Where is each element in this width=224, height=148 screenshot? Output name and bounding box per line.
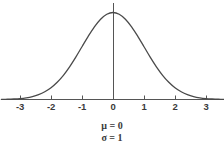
x-tick-label-pos3: 3 [194, 101, 218, 112]
x-tick-label-neg3: -3 [8, 101, 32, 112]
parameter-annotations: μ = 0 σ = 1 [0, 120, 224, 143]
x-tick-label-neg1: -1 [70, 101, 94, 112]
sigma-annotation: σ = 1 [0, 132, 224, 144]
x-tick-label-zero: 0 [101, 101, 125, 112]
mu-annotation: μ = 0 [0, 120, 224, 132]
x-tick-label-neg2: -2 [39, 101, 63, 112]
normal-distribution-figure: -3 -2 -1 0 1 2 3 μ = 0 σ = 1 [0, 0, 224, 148]
x-tick-label-pos2: 2 [163, 101, 187, 112]
gaussian-curve [1, 13, 224, 100]
x-tick-label-pos1: 1 [132, 101, 156, 112]
